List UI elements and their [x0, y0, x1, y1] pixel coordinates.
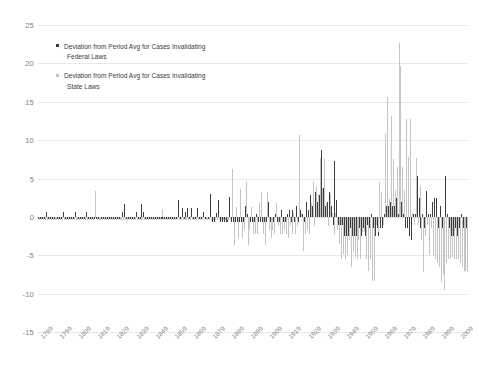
bar-state	[53, 217, 54, 220]
bar-state	[387, 97, 388, 217]
bar-state	[209, 217, 210, 220]
bar-federal	[124, 204, 125, 217]
bar-state	[139, 217, 140, 220]
bar-state	[366, 217, 367, 259]
bar-state	[391, 116, 392, 217]
bar-state	[100, 217, 101, 220]
bar-state	[118, 217, 119, 220]
bar-state	[427, 217, 428, 225]
bar-state	[433, 217, 434, 255]
bar-state	[385, 134, 386, 217]
y-axis: 2520151050-5-10-15	[0, 25, 34, 332]
bar-state	[269, 217, 270, 230]
bar-state	[265, 217, 266, 245]
bar-state	[234, 217, 235, 245]
bar-state	[76, 217, 77, 220]
bar-federal	[426, 191, 427, 217]
bar-federal	[281, 210, 282, 217]
y-tick-label: 15	[4, 97, 34, 106]
bar-state	[439, 217, 440, 267]
bar-state	[337, 217, 338, 230]
chart-legend: Deviation from Period Avg for Cases Inva…	[56, 42, 205, 101]
bar-federal	[334, 161, 335, 217]
bar-state	[313, 182, 314, 217]
bar-state	[355, 217, 356, 257]
bar-state	[345, 217, 346, 259]
bar-state	[416, 158, 417, 217]
bar-state	[173, 217, 174, 220]
bar-state	[425, 217, 426, 236]
bar-state	[106, 217, 107, 220]
bar-federal	[417, 176, 418, 217]
bar-state	[278, 217, 279, 226]
bar-state	[450, 217, 451, 259]
bar-state	[395, 190, 396, 217]
bar-state	[39, 217, 40, 220]
bar-state	[181, 217, 182, 220]
bar-state	[332, 213, 333, 217]
bar-state	[372, 217, 373, 281]
legend-item-federal[interactable]: Deviation from Period Avg for Cases Inva…	[56, 42, 205, 62]
bar-state	[282, 217, 283, 234]
bar-state	[458, 217, 459, 259]
bar-federal	[405, 217, 406, 229]
bar-state	[137, 217, 138, 220]
bar-state	[293, 213, 294, 217]
bar-state	[51, 217, 52, 220]
bar-state	[192, 217, 193, 220]
bar-state	[108, 217, 109, 220]
bar-state	[379, 182, 380, 217]
bar-state	[362, 217, 363, 232]
bar-state	[43, 217, 44, 220]
legend-item-state[interactable]: Deviation from Period Avg for Cases Inva…	[56, 71, 205, 91]
bar-state	[418, 217, 419, 225]
bar-state	[320, 158, 321, 217]
bar-state	[142, 217, 143, 220]
bar-state	[441, 217, 442, 282]
bar-state	[328, 217, 329, 226]
bar-federal	[229, 197, 230, 217]
bar-federal	[178, 200, 179, 217]
bar-state	[104, 217, 105, 220]
bar-state	[378, 217, 379, 232]
bar-state	[58, 217, 59, 220]
bar-state	[223, 217, 224, 220]
bar-state	[465, 217, 466, 271]
bar-state	[253, 217, 254, 234]
bar-state	[198, 217, 199, 220]
bar-state	[236, 207, 237, 217]
bar-state	[93, 217, 94, 220]
bar-state	[410, 119, 411, 217]
legend-swatch-federal-icon	[56, 44, 59, 47]
bar-state	[206, 217, 207, 220]
bar-state	[456, 217, 457, 259]
bar-state	[276, 203, 277, 217]
bar-state	[169, 217, 170, 220]
bar-federal	[258, 217, 259, 222]
bar-federal	[191, 208, 192, 217]
bar-state	[251, 207, 252, 217]
bar-state	[110, 217, 111, 220]
bar-state	[349, 217, 350, 240]
bar-state	[85, 217, 86, 220]
bar-state	[171, 217, 172, 220]
bar-state	[246, 182, 247, 217]
bar-state	[217, 217, 218, 220]
bar-state	[56, 217, 57, 220]
bar-state	[364, 217, 365, 232]
bar-state	[165, 217, 166, 220]
y-tick-label: -5	[4, 251, 34, 260]
bar-state	[347, 217, 348, 255]
bar-federal	[94, 217, 95, 219]
bar-state	[358, 217, 359, 240]
bar-federal	[210, 194, 211, 217]
bar-state	[303, 217, 304, 252]
bar-state	[207, 217, 208, 220]
bar-federal	[239, 217, 240, 222]
bar-state	[175, 217, 176, 220]
bar-federal	[306, 202, 307, 217]
bar-state	[435, 217, 436, 259]
bar-state	[421, 217, 422, 240]
bar-state	[230, 217, 231, 220]
bar-state	[148, 217, 149, 220]
